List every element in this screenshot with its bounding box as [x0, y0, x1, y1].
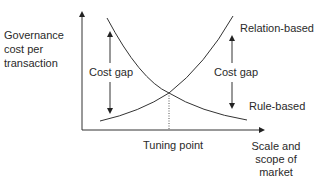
tuning-point-label: Tuning point	[143, 139, 203, 152]
rule-based-label: Rule-based	[249, 100, 305, 113]
cost-gap-left-label: Cost gap	[89, 66, 133, 79]
y-axis-label-line-1: Governance	[4, 29, 64, 42]
relation-based-label: Relation-based	[240, 22, 314, 35]
x-axis-label-line-3: market	[246, 166, 306, 179]
y-axis-label-line-2: cost per	[4, 43, 43, 56]
y-axis-label-line-3: transaction	[4, 57, 58, 70]
x-axis-label-line-1: Scale and	[246, 140, 306, 153]
x-axis-label-line-2: scope of	[246, 153, 306, 166]
cost-gap-right-label: Cost gap	[214, 66, 258, 79]
